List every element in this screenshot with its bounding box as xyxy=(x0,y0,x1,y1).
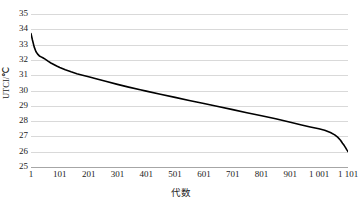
x-axis-tick-label: 401 xyxy=(140,169,154,179)
x-axis-tick-label: 101 xyxy=(53,169,67,179)
y-axis-tick-label: 27 xyxy=(19,131,28,140)
series-line-utci xyxy=(31,14,348,167)
plot-area xyxy=(31,14,348,167)
x-axis-title: 代数 xyxy=(0,185,361,199)
y-axis-tick-label: 29 xyxy=(19,101,28,110)
x-axis-tick-label: 601 xyxy=(197,169,211,179)
x-axis-tick-label: 501 xyxy=(168,169,182,179)
x-axis-tick-label: 701 xyxy=(226,169,240,179)
x-axis-tick-label: 1 101 xyxy=(338,169,358,179)
y-axis-tick-label: 34 xyxy=(19,24,28,33)
y-axis-tick-label: 26 xyxy=(19,147,28,156)
y-axis-tick-label: 28 xyxy=(19,116,28,125)
x-axis-tick-label: 801 xyxy=(255,169,269,179)
y-axis-tick-label: 31 xyxy=(19,70,28,79)
x-axis-tick-labels: 11012013014015016017018019011 0011 101 xyxy=(0,169,361,185)
y-axis-tick-label: 33 xyxy=(19,40,28,49)
y-axis-tick-label: 32 xyxy=(19,55,28,64)
x-axis-tick-label: 201 xyxy=(82,169,96,179)
chart-figure: UTCI/℃ 3534333231302928272625 1101201301… xyxy=(0,0,361,212)
x-axis-tick-label: 1 001 xyxy=(309,169,329,179)
x-axis-line xyxy=(31,167,348,168)
y-axis-tick-label: 30 xyxy=(19,86,28,95)
x-axis-tick-label: 1 xyxy=(29,169,34,179)
y-axis-tick-label: 35 xyxy=(19,9,28,18)
x-axis-tick-label: 901 xyxy=(284,169,298,179)
x-axis-tick-label: 301 xyxy=(111,169,125,179)
